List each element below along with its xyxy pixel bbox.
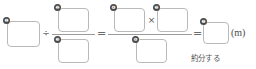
step-marker-1: ❶ bbox=[3, 17, 10, 24]
equals-operator-1: = bbox=[96, 28, 107, 39]
multiply-operator: × bbox=[146, 16, 157, 25]
answer-box-result-denominator[interactable] bbox=[136, 39, 167, 63]
answer-box-dividend[interactable] bbox=[7, 21, 40, 47]
equals-operator-2: = bbox=[192, 28, 203, 39]
divide-operator: ÷ bbox=[41, 29, 51, 38]
step-marker-3: ❸ bbox=[54, 36, 61, 43]
answer-box-final[interactable] bbox=[203, 22, 229, 44]
fraction-bar-result bbox=[108, 34, 192, 35]
answer-box-result-numerator-right[interactable] bbox=[157, 8, 188, 32]
step-marker-2: ❷ bbox=[54, 4, 61, 11]
answer-box-result-numerator-left[interactable] bbox=[114, 8, 145, 32]
answer-box-divisor-denominator[interactable] bbox=[58, 39, 89, 63]
annotation-reduce-fraction: 約分する bbox=[191, 52, 220, 63]
worksheet-canvas: ❶ ÷ ❷ ❸ = ❹ × ❺ ❻ = ❼ (m) 約分する bbox=[0, 0, 256, 69]
answer-box-divisor-numerator[interactable] bbox=[58, 8, 89, 32]
step-marker-4: ❹ bbox=[110, 4, 117, 11]
step-marker-7: ❼ bbox=[200, 18, 207, 25]
fraction-bar-divisor bbox=[52, 34, 95, 35]
step-marker-6: ❻ bbox=[132, 36, 139, 43]
step-marker-5: ❺ bbox=[153, 4, 160, 11]
unit-label: (m) bbox=[231, 27, 245, 38]
